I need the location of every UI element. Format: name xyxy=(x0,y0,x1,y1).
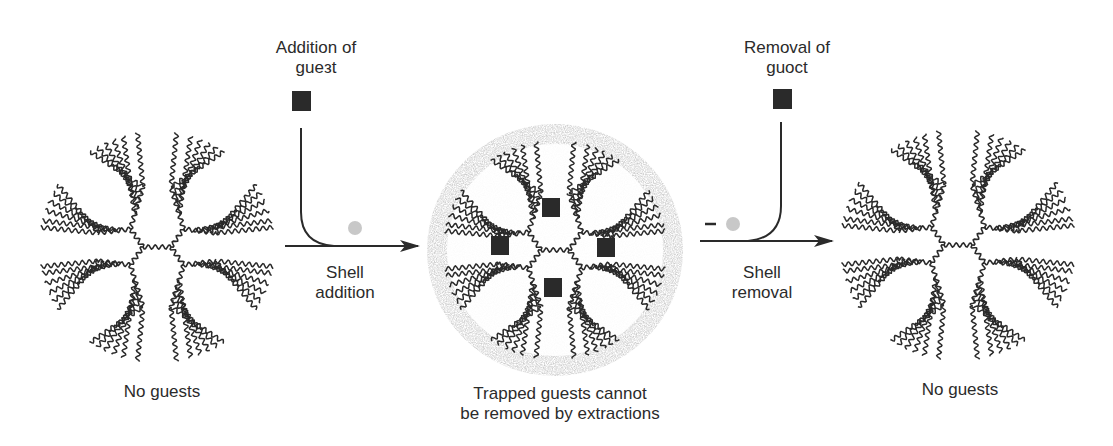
polymer-chain xyxy=(143,245,171,249)
polymer-chain xyxy=(170,132,179,186)
polymer-chain xyxy=(169,307,179,361)
polymer-chain xyxy=(931,226,945,245)
polymer-chain xyxy=(972,305,1024,342)
polymer-chain xyxy=(91,150,143,187)
label-line: Addition of xyxy=(256,38,376,58)
addition-of-guest-label: Addition of gueзt xyxy=(256,38,376,78)
shell-removal-label: Shell removal xyxy=(712,263,812,303)
caption-trapped-guests: Trapped guests cannot be removed by extr… xyxy=(420,384,700,424)
polymer-chain xyxy=(892,148,944,185)
polymer-chain xyxy=(944,243,972,247)
label-line: Shell xyxy=(712,263,812,283)
guest-left-square-icon xyxy=(491,236,509,255)
polymer-chain xyxy=(171,230,185,247)
guest-square-icon xyxy=(292,91,311,111)
removal-of-guest-label: Removal of guoct xyxy=(727,38,847,78)
polymer-chain xyxy=(849,199,911,230)
caption-line: No guests xyxy=(97,382,227,402)
guest-incoming-path xyxy=(301,128,334,246)
polymer-chain xyxy=(971,130,980,184)
polymer-chain xyxy=(89,306,142,343)
polymer-chain xyxy=(905,291,940,349)
polymer-chain xyxy=(170,247,184,266)
polymer-chain xyxy=(175,143,210,201)
polymer-chain xyxy=(976,141,1011,199)
polymer-chain xyxy=(936,131,946,185)
polymer-chain xyxy=(171,151,225,188)
dendrimer-no-guests-left xyxy=(41,132,274,361)
polymer-chain xyxy=(972,149,1026,186)
guest-right-square-icon xyxy=(597,238,615,257)
polymer-chain xyxy=(890,304,944,341)
polymer-chain xyxy=(923,134,938,213)
polymer-chain xyxy=(930,245,944,262)
polymer-chain xyxy=(971,245,985,264)
guest-square-icon xyxy=(773,89,792,109)
label-line: removal xyxy=(712,283,812,303)
caption-no-guests-left: No guests xyxy=(97,382,227,402)
caption-no-guests-right: No guests xyxy=(895,380,1025,400)
dendrimer-no-guests-right xyxy=(842,130,1075,359)
guest-bottom-square-icon xyxy=(544,278,562,297)
polymer-chain xyxy=(136,307,145,361)
polymer-chain xyxy=(972,228,986,245)
polymer-chain xyxy=(122,136,137,215)
shell-addition-label: Shell addition xyxy=(295,263,395,303)
dendrimer-with-shell-trapped-guests xyxy=(427,124,683,376)
shell-unit-dot-icon xyxy=(348,221,362,235)
guest-outgoing-path xyxy=(748,122,781,241)
shell-unit-dot-icon xyxy=(726,217,740,231)
label-line: Removal of xyxy=(727,38,847,58)
polymer-chain xyxy=(979,278,994,357)
label-line: guoct xyxy=(727,58,847,78)
polymer-chain xyxy=(970,305,980,359)
polymer-chain xyxy=(1005,260,1067,291)
guest-top-square-icon xyxy=(542,198,560,217)
polymer-chain xyxy=(937,305,946,359)
caption-line: Trapped guests cannot xyxy=(420,384,700,404)
polymer-chain xyxy=(48,201,110,232)
polymer-chain xyxy=(178,280,193,359)
caption-line: be removed by extractions xyxy=(420,404,700,424)
label-line: addition xyxy=(295,283,395,303)
polymer-chain xyxy=(130,228,144,247)
transition-shell-addition xyxy=(285,91,418,246)
caption-line: No guests xyxy=(895,380,1025,400)
polymer-chain xyxy=(129,247,143,264)
label-line: gueзt xyxy=(256,58,376,78)
polymer-chain xyxy=(204,262,266,293)
label-line: Shell xyxy=(295,263,395,283)
polymer-chain xyxy=(104,293,139,351)
transition-shell-removal xyxy=(700,89,832,241)
polymer-chain xyxy=(135,133,145,187)
polymer-chain xyxy=(171,307,223,344)
